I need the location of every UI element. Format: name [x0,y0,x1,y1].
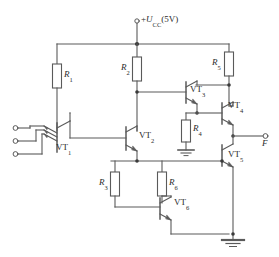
resistor-r2-label: R2 [121,63,130,72]
schematic-drawing [0,0,279,257]
vt3-emitter-arrow [192,99,197,104]
input-terminal-3-circle[interactable] [13,152,18,157]
vcc-label: +UCC(5V) [141,15,178,24]
resistor-r3-label: R3 [99,178,108,187]
junction-dot-emitter-bus [135,159,139,163]
resistor-r1-body [53,64,62,88]
vt5-emitter-arrow [228,162,233,167]
vt4-emitter-arrow [228,120,233,125]
transistor-vt4-label: VT4 [228,101,243,110]
output-label: F [262,139,268,148]
resistor-r6-body [158,172,167,196]
transistor-vt1-label: VT1 [56,143,71,152]
transistor-vt5-label: VT5 [228,150,243,159]
vt2-emitter-arrow [132,146,137,151]
resistor-r4-body [182,120,191,142]
transistor-vt3-label: VT3 [190,85,205,94]
junction-dot-r2-vt3 [135,90,139,94]
junction-dot-ground [231,232,235,236]
junction-dot-vt5-base [220,159,224,163]
resistor-r4-label: R4 [193,124,202,133]
transistor-vt6-label: VT6 [174,198,189,207]
input-terminal-2-circle[interactable] [13,139,18,144]
input-terminal-1-circle[interactable] [13,126,18,131]
resistor-r2-body [133,57,142,81]
vt6-emitter-arrow [166,215,171,220]
transistor-vt2-label: VT2 [139,131,154,140]
resistor-r6-label: R6 [169,178,178,187]
resistor-r5-label: R5 [212,58,221,67]
vt2-collector-lead [126,126,137,132]
circuit-diagram-canvas: +UCC(5V) R1 R2 R3 R4 R5 R6 VT1 VT2 VT3 V… [0,0,279,257]
junction-dot-r5-vt3c [227,83,231,87]
vcc-terminal-circle [135,19,139,23]
vt1-collector-lead [57,121,70,128]
resistor-r5-body [225,52,234,76]
resistor-r1-label: R1 [64,70,73,79]
resistor-r3-body [111,172,120,196]
